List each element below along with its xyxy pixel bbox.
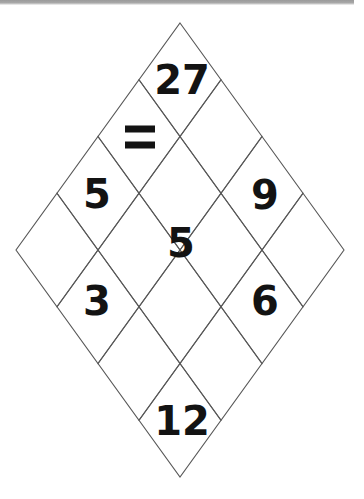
- equals-bar: [125, 126, 155, 133]
- diamond-puzzle-grid: 275953612: [0, 0, 364, 499]
- cell-value-bottom: 12: [154, 398, 210, 444]
- cell-value-top: 27: [154, 57, 210, 103]
- cell-value-lower-right: 6: [251, 278, 279, 324]
- cell-value-center: 5: [167, 220, 195, 266]
- cell-value-right: 9: [251, 172, 279, 218]
- cell-value-left: 5: [83, 171, 111, 217]
- equals-bar: [125, 142, 155, 149]
- puzzle-page: 275953612: [0, 0, 364, 499]
- cell-value-lower-left: 3: [83, 278, 111, 324]
